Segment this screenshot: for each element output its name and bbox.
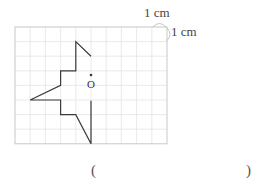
center-label: O xyxy=(87,78,95,90)
center-point-icon xyxy=(90,74,93,77)
answer-close-paren: ) xyxy=(246,163,251,178)
answer-open-paren: ( xyxy=(91,163,96,178)
grid-diagram: O xyxy=(0,0,259,191)
